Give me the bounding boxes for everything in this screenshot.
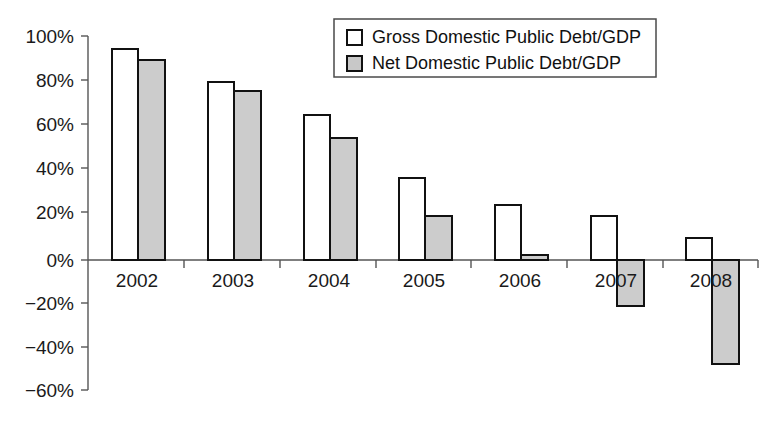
x-tick-label-2004: 2004 — [308, 270, 351, 291]
x-tick-label-2006: 2006 — [499, 270, 541, 291]
bar-gross-2008[interactable] — [686, 238, 712, 260]
y-axis-ticks — [81, 36, 88, 390]
chart-container: 100% 80% 60% 40% 20% 0% −20% −40% −60% — [0, 0, 778, 424]
bar-net-2005[interactable] — [425, 216, 452, 260]
legend-swatch-net-icon — [347, 56, 362, 71]
bar-net-2006[interactable] — [521, 255, 548, 260]
y-tick-label: −20% — [25, 293, 74, 314]
y-tick-label: 60% — [36, 114, 74, 135]
y-tick-label: −60% — [25, 380, 74, 401]
x-axis-ticks — [184, 260, 758, 268]
bar-gross-2003[interactable] — [208, 82, 234, 260]
x-tick-label-2003: 2003 — [212, 270, 254, 291]
bars-layer — [112, 49, 739, 364]
y-tick-label: −40% — [25, 337, 74, 358]
bar-net-2004[interactable] — [330, 138, 357, 260]
x-tick-label-2008: 2008 — [690, 270, 732, 291]
y-axis-labels: 100% 80% 60% 40% 20% 0% −20% −40% −60% — [25, 26, 74, 401]
bar-net-2002[interactable] — [138, 60, 165, 260]
y-tick-label: 100% — [25, 26, 74, 47]
bar-gross-2005[interactable] — [399, 178, 425, 260]
x-tick-label-2005: 2005 — [403, 270, 445, 291]
legend-label-gross: Gross Domestic Public Debt/GDP — [372, 27, 641, 47]
bar-net-2003[interactable] — [234, 91, 261, 260]
y-tick-label: 40% — [36, 158, 74, 179]
y-tick-label: 80% — [36, 70, 74, 91]
legend-label-net: Net Domestic Public Debt/GDP — [372, 53, 621, 73]
bar-gross-2006[interactable] — [495, 205, 521, 260]
x-tick-label-2002: 2002 — [116, 270, 158, 291]
bar-chart: 100% 80% 60% 40% 20% 0% −20% −40% −60% — [0, 0, 778, 424]
chart-legend: Gross Domestic Public Debt/GDP Net Domes… — [334, 19, 656, 77]
bar-gross-2002[interactable] — [112, 49, 138, 260]
legend-swatch-gross-icon — [347, 30, 362, 45]
y-tick-label: 0% — [47, 250, 75, 271]
bar-gross-2007[interactable] — [591, 216, 617, 260]
y-tick-label: 20% — [36, 202, 74, 223]
bar-gross-2004[interactable] — [304, 115, 330, 260]
x-tick-label-2007: 2007 — [595, 270, 637, 291]
